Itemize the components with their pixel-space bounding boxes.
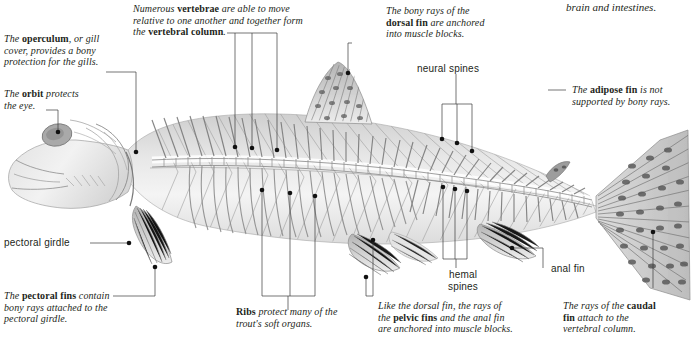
caption-pelvic-anal: Like the dorsal fin, the rays of the pel… <box>378 300 543 335</box>
pectoral-fin <box>132 206 172 264</box>
label-neural-spines: neural spines <box>417 63 479 75</box>
fish-head <box>9 120 134 208</box>
fish-body <box>128 108 596 248</box>
caption-dorsal-fin: The bony rays of the dorsal fin are anch… <box>386 5 506 40</box>
top-fragment-text: brain and intestines. <box>566 1 656 13</box>
caption-pectoral-fins: The pectoral fins contain bony rays atta… <box>4 290 139 325</box>
caption-ribs: Ribs protect many of the trout's soft or… <box>236 306 366 329</box>
caption-caudal-fin: The rays of the caudal fin attach to the… <box>563 300 688 335</box>
adipose-fin <box>546 162 570 182</box>
label-hemal-spines: hemal spines <box>441 269 485 292</box>
caption-adipose-fin: The adipose fin is not supported by bony… <box>572 84 694 107</box>
caption-vertebrae: Numerous vertebrae are able to move rela… <box>133 3 333 38</box>
label-pectoral-girdle: pectoral girdle <box>4 237 70 249</box>
caudal-fin <box>596 130 690 300</box>
caption-operculum: The operculum, or gill cover, provides a… <box>4 33 110 68</box>
label-anal-fin: anal fin <box>551 263 585 275</box>
dorsal-fin <box>305 62 372 124</box>
leader-pectoral-girdle <box>90 241 131 246</box>
anatomy-figure: brain and intestines. The operculum, or … <box>0 0 697 338</box>
leader-operculum <box>106 72 138 154</box>
caption-orbit: The orbit protects the eye. <box>4 88 104 111</box>
